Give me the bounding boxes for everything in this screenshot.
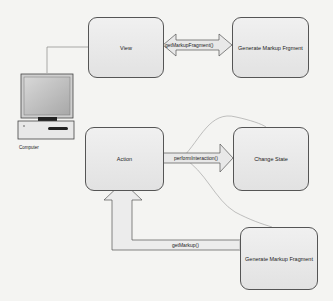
action-label: Action [117,156,132,162]
generate-markup-fragment-top-box: Generate Markup Frgment [232,17,309,78]
generate-top-label: Generate Markup Frgment [238,45,303,51]
view-box: View [88,17,164,78]
generate-bottom-label: Generate Markup Fragment [245,256,313,262]
change-state-box: Change State [233,127,309,191]
get-markup-label: getMarkup() [172,242,199,248]
view-label: View [120,45,132,51]
get-markup-fragment-label: getMarkupFragment() [165,42,213,48]
generate-markup-fragment-bottom-box: Generate Markup Fragment [240,227,318,290]
perform-interaction-label: performInteraction() [174,155,218,161]
computer-view-connector [47,47,88,73]
action-box: Action [85,127,164,191]
computer-icon [18,74,74,139]
arrow-get-markup [104,182,240,250]
computer-label: Computer [19,145,39,150]
change-state-label: Change State [254,156,288,162]
